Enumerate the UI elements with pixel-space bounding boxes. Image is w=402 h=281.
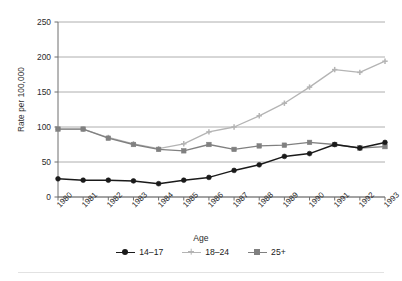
y-tick-label: 100	[25, 123, 51, 131]
gridlines	[58, 22, 385, 197]
legend-marker-cross-icon	[182, 248, 201, 257]
y-tick-label: 150	[25, 88, 51, 96]
x-axis-title: Age	[0, 233, 402, 243]
y-tick-label: 50	[25, 158, 51, 166]
legend-label: 18–24	[205, 247, 229, 257]
chart-legend: 14–1718–2425+	[0, 247, 402, 257]
legend-label: 25+	[271, 247, 286, 257]
legend-item-25-[interactable]: 25+	[248, 247, 286, 257]
legend-marker-circle-icon	[116, 248, 135, 257]
y-tick-marks	[55, 22, 59, 197]
legend-item-18-24[interactable]: 18–24	[182, 247, 229, 257]
axis-lines	[58, 22, 385, 197]
legend-item-14-17[interactable]: 14–17	[116, 247, 163, 257]
legend-label: 14–17	[139, 247, 163, 257]
y-tick-label: 250	[25, 18, 51, 26]
legend-marker-square-icon	[248, 248, 267, 257]
chart-figure: 050100150200250 198019811982198319841985…	[0, 0, 402, 281]
y-tick-label: 0	[25, 193, 51, 201]
y-tick-label: 200	[25, 53, 51, 61]
series-layer	[55, 59, 387, 187]
y-axis-title: Rate per 100,000	[17, 40, 26, 160]
bottom-divider	[18, 272, 384, 273]
plot-area: 050100150200250 198019811982198319841985…	[0, 0, 402, 281]
